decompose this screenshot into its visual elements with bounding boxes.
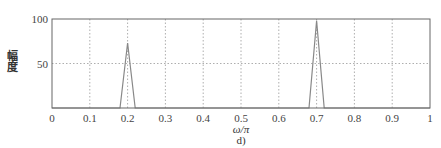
x-tick-label: 0.7 bbox=[310, 112, 324, 124]
x-tick-label: 0.2 bbox=[121, 112, 135, 124]
x-tick-label: 0.9 bbox=[385, 112, 399, 124]
x-tick-label: 0.8 bbox=[348, 112, 362, 124]
subplot-label: d) bbox=[236, 134, 246, 147]
x-tick-label: 1 bbox=[427, 112, 433, 124]
tick-labels: 00.10.20.30.40.50.60.70.80.9150100 bbox=[32, 13, 433, 124]
y-axis-label: 幅度 bbox=[4, 50, 18, 72]
grid-lines bbox=[52, 19, 430, 108]
x-tick-label: 0.6 bbox=[272, 112, 286, 124]
y-tick-label: 100 bbox=[32, 13, 49, 25]
spectrum-chart: 00.10.20.30.40.50.60.70.80.9150100 ω/π d… bbox=[0, 0, 441, 148]
x-tick-label: 0.4 bbox=[196, 112, 210, 124]
x-tick-label: 0 bbox=[49, 112, 55, 124]
y-tick-label: 50 bbox=[37, 58, 49, 70]
x-tick-label: 0.3 bbox=[159, 112, 173, 124]
x-tick-label: 0.1 bbox=[83, 112, 97, 124]
